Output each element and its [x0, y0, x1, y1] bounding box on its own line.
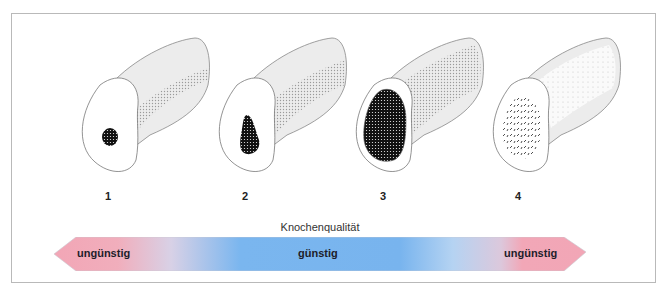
bone-quality-3-illustration: [344, 30, 494, 180]
bone-number-3: 3: [380, 190, 386, 202]
axis-label-knochenqualitaet: Knochenqualität: [0, 221, 640, 233]
scale-label-favorable: günstig: [298, 247, 338, 259]
bone-quality-4-illustration: [481, 30, 631, 180]
scale-label-unfavorable-left: ungünstig: [77, 247, 130, 259]
bone-number-2: 2: [242, 190, 248, 202]
bone-number-1: 1: [105, 190, 111, 202]
bone-quality-1-illustration: [70, 30, 220, 180]
bone-quality-2-illustration: [207, 30, 357, 180]
bone-number-4: 4: [515, 190, 521, 202]
scale-label-unfavorable-right: ungünstig: [504, 247, 557, 259]
